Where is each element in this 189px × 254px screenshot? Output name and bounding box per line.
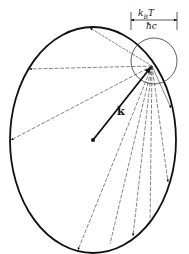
scatter-arrow xyxy=(150,66,152,226)
width-label-denominator: ħc xyxy=(146,22,157,31)
width-label-numerator: kBT xyxy=(138,9,154,20)
scatter-arrow xyxy=(11,66,152,140)
fermi-surface-diagram xyxy=(0,0,189,254)
scattering-arrows xyxy=(11,28,171,250)
scatter-arrow xyxy=(29,66,152,69)
k-vector-label: k xyxy=(117,106,125,117)
origin-dot xyxy=(91,138,95,142)
scatter-arrow xyxy=(152,66,171,108)
k-vector-arrow xyxy=(93,67,151,140)
thermal-smearing-circle xyxy=(131,38,177,84)
scatter-arrow xyxy=(133,66,152,236)
